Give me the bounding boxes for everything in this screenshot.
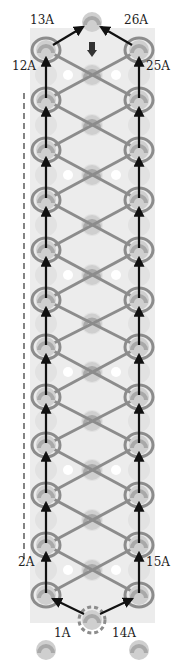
label-25a: 25A	[146, 60, 170, 72]
hole	[63, 367, 73, 377]
hole	[63, 70, 73, 80]
label-12a: 12A	[12, 60, 36, 72]
hole	[63, 465, 73, 475]
label-26a: 26A	[124, 14, 148, 26]
label-1a: 1A	[54, 627, 70, 639]
down-arrow-icon	[89, 42, 95, 50]
label-2a: 2A	[18, 556, 34, 568]
hole	[111, 270, 121, 280]
hole	[111, 565, 121, 575]
hole	[63, 270, 73, 280]
hole	[63, 170, 73, 180]
hole	[111, 465, 121, 475]
hole	[63, 565, 73, 575]
hole	[111, 70, 121, 80]
label-13a: 13A	[30, 14, 54, 26]
loom-diagram: 1A 14A 2A 15A 12A 25A 13A 26A	[0, 0, 184, 668]
hole	[111, 367, 121, 377]
hole	[111, 170, 121, 180]
label-14a: 14A	[112, 627, 136, 639]
label-15a: 15A	[146, 556, 170, 568]
